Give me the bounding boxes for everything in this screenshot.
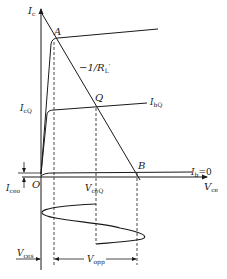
point-b-label: B xyxy=(137,160,145,171)
ac-load-line xyxy=(41,12,140,180)
ib0-label: Ib=0 xyxy=(190,167,212,178)
vceq-label: VceQ xyxy=(85,183,103,194)
ib0-curve xyxy=(41,172,192,176)
icq-label: IcQ xyxy=(19,103,32,114)
load-line-slope-label: −1/RL′ xyxy=(79,62,111,74)
output-voltage-waveform xyxy=(42,204,145,244)
vces-label: Vces xyxy=(17,248,34,259)
vopp-label: Vopp xyxy=(87,254,105,266)
output-characteristic-diagram: Ic Vce O A Q B −1/RL′ IbQ Ib=0 IcQ Iceo … xyxy=(0,0,227,279)
iceo-label: Iceo xyxy=(5,183,20,194)
ibq-curve xyxy=(41,103,147,174)
point-q-label: Q xyxy=(95,92,103,103)
x-axis-label: Vce xyxy=(204,181,219,193)
origin-label: O xyxy=(32,179,40,190)
ibq-label: IbQ xyxy=(149,97,162,108)
point-a-label: A xyxy=(53,26,61,37)
y-axis-label: Ic xyxy=(27,5,36,17)
